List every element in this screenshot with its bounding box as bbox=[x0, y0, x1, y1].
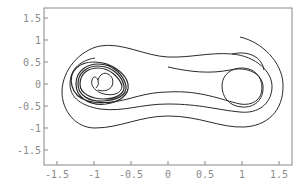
y-tick-label: 0 bbox=[35, 79, 41, 90]
x-tick-label: -1 bbox=[88, 169, 100, 180]
y-tick-label: -1 bbox=[29, 123, 41, 134]
trajectory bbox=[62, 37, 283, 128]
trajectory-left-spiral bbox=[92, 73, 122, 94]
y-tick-label: -1.5 bbox=[17, 145, 41, 156]
x-axis: -1.5-1-0.500.511.5 bbox=[45, 161, 288, 180]
trajectory-middle-band bbox=[112, 53, 264, 102]
x-tick-label: -0.5 bbox=[119, 169, 143, 180]
plot-frame bbox=[44, 8, 292, 165]
trajectory-start-arc bbox=[62, 37, 283, 128]
x-tick-label: 0.5 bbox=[196, 169, 214, 180]
y-tick-label: -0.5 bbox=[17, 101, 41, 112]
x-tick-label: 1 bbox=[239, 169, 245, 180]
y-tick-label: 1 bbox=[35, 35, 41, 46]
phase-portrait-chart: 1.510.50-0.5-1-1.5 -1.5-1-0.500.511.5 bbox=[0, 0, 306, 184]
y-tick-label: 1.5 bbox=[23, 13, 41, 24]
x-tick-label: 1.5 bbox=[270, 169, 288, 180]
y-axis: 1.510.50-0.5-1-1.5 bbox=[17, 13, 48, 156]
x-tick-label: 0 bbox=[165, 169, 171, 180]
x-tick-label: -1.5 bbox=[45, 169, 69, 180]
trajectory-right-inner-loop bbox=[168, 67, 263, 107]
y-tick-label: 0.5 bbox=[23, 57, 41, 68]
